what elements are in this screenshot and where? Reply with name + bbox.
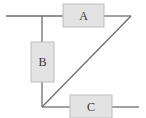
component-c-label: C (87, 100, 95, 114)
component-c: C (70, 95, 112, 118)
component-b: B (31, 42, 54, 82)
component-a: A (63, 4, 104, 27)
circuit-diagram: A B C (0, 0, 146, 118)
component-a-label: A (79, 9, 88, 23)
diagonal-wire (42, 16, 131, 107)
component-b-label: B (38, 55, 46, 69)
